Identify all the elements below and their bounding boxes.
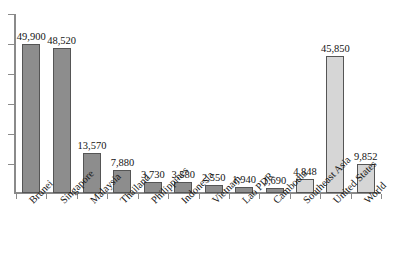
bar-slot: 4,848 [290, 14, 320, 193]
bar-value-label: 13,570 [78, 140, 107, 151]
bar-slot: 3,730 [138, 14, 168, 193]
bar-value-label: 45,850 [321, 43, 350, 54]
plot-area: 49,90048,52013,5707,8803,7303,5802,5501,… [16, 14, 381, 193]
x-axis-category-labels: BruneiSingaporeMalaysiaThailandPhilippin… [0, 196, 396, 264]
bar-chart: 49,90048,52013,5707,8803,7303,5802,5501,… [0, 0, 396, 264]
bar-value-label: 48,520 [47, 35, 76, 46]
bar-slot: 7,880 [107, 14, 137, 193]
bar-value-label: 7,880 [111, 157, 135, 168]
y-axis-tick [8, 104, 15, 105]
bar-slot: 49,900 [16, 14, 46, 193]
y-axis-tick [8, 164, 15, 165]
bar-value-label: 9,852 [354, 151, 378, 162]
bar-slot: 1,940 [229, 14, 259, 193]
y-axis-tick [8, 134, 15, 135]
bar-slot: 2,550 [199, 14, 229, 193]
y-axis-tick [8, 14, 15, 15]
y-axis-tick [8, 74, 15, 75]
bar-value-label: 49,900 [17, 31, 46, 42]
bar-slot: 13,570 [77, 14, 107, 193]
y-axis-tick [8, 44, 15, 45]
bar-slot: 1,690 [259, 14, 289, 193]
bar[interactable] [53, 48, 71, 193]
bar[interactable] [22, 44, 40, 193]
bar-slot: 48,520 [46, 14, 76, 193]
